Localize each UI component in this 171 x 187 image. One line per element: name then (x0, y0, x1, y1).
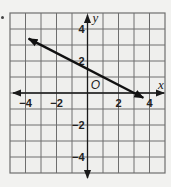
origin-label: O (91, 78, 100, 92)
y-tick-label: −4 (72, 151, 85, 163)
x-tick-label: −4 (19, 97, 32, 109)
y-tick-label: 4 (78, 23, 85, 35)
x-tick-label: −2 (50, 97, 63, 109)
y-axis-label: y (91, 10, 99, 25)
x-axis-label: x (157, 77, 164, 92)
y-tick-label: −2 (72, 119, 85, 131)
x-tick-label: 2 (115, 97, 121, 109)
coordinate-graph: −4−22442−2−4xyO (0, 0, 171, 187)
x-tick-label: 4 (146, 97, 153, 109)
